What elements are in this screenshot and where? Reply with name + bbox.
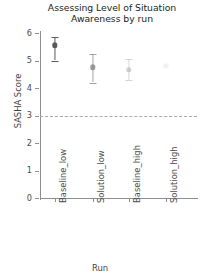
reference-line-threshold xyxy=(40,116,197,117)
x-tick-label-Solution_high: Solution_high xyxy=(169,146,179,203)
y-tick-label-1: 1 xyxy=(6,166,32,174)
x-tick-Baseline_low xyxy=(55,198,56,202)
x-axis-label: Run xyxy=(0,263,200,273)
error-bar-Baseline_low xyxy=(54,37,55,60)
data-point-Baseline_low[interactable] xyxy=(52,43,57,48)
error-bar-cap-lower-Solution_low xyxy=(89,83,96,84)
y-axis-label: SASHA Score xyxy=(13,61,23,141)
error-bar-cap-lower-Baseline_low xyxy=(52,61,59,62)
error-bar-cap-lower-Baseline_high xyxy=(126,80,133,81)
x-tick-label-Baseline_high: Baseline_high xyxy=(132,145,142,203)
y-tick-label-6: 6 xyxy=(6,29,32,37)
x-tick-Baseline_high xyxy=(129,198,130,202)
chart-title: Assessing Level of Situation Awareness b… xyxy=(26,2,198,24)
data-point-Solution_low[interactable] xyxy=(90,65,95,70)
chart-figure: Assessing Level of Situation Awareness b… xyxy=(0,0,200,279)
data-point-Baseline_high[interactable] xyxy=(126,67,131,72)
y-tick-1 xyxy=(35,171,39,172)
y-tick-0 xyxy=(35,198,39,199)
y-tick-3 xyxy=(35,116,39,117)
error-bar-cap-upper-Baseline_high xyxy=(126,59,133,60)
y-tick-5 xyxy=(35,61,39,62)
x-tick-Solution_high xyxy=(166,198,167,202)
chart-title-line-2: Awareness by run xyxy=(26,13,198,24)
chart-title-line-1: Assessing Level of Situation xyxy=(26,2,198,13)
error-bar-cap-upper-Solution_low xyxy=(89,54,96,55)
x-tick-Solution_low xyxy=(93,198,94,202)
x-tick-label-Baseline_low: Baseline_low xyxy=(58,149,68,203)
x-tick-label-Solution_low: Solution_low xyxy=(96,150,106,203)
y-tick-2 xyxy=(35,143,39,144)
y-tick-4 xyxy=(35,88,39,89)
error-bar-cap-upper-Baseline_low xyxy=(52,37,59,38)
y-tick-6 xyxy=(35,33,39,34)
y-tick-label-0: 0 xyxy=(6,194,32,202)
